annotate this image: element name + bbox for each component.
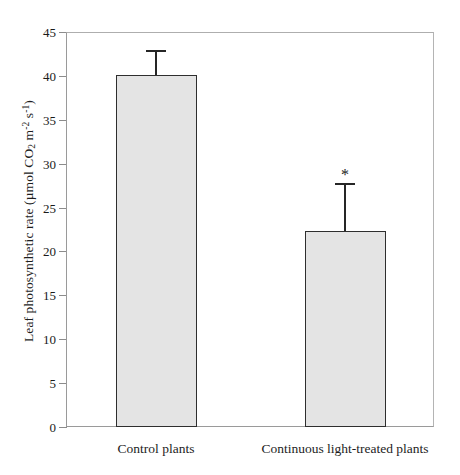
y-axis-title-mid: m bbox=[21, 130, 36, 144]
y-tick-0 bbox=[59, 427, 67, 428]
y-tick-label: 45 bbox=[43, 25, 56, 41]
y-tick-label: 40 bbox=[43, 69, 56, 85]
bar-1 bbox=[305, 231, 386, 427]
x-axis-label-0: Control plants bbox=[118, 441, 195, 457]
y-axis-title-sup-minus2: -2 bbox=[21, 122, 31, 130]
y-axis-title-sub-2: 2 bbox=[27, 144, 37, 149]
y-axis-title: Leaf photosynthetic rate (µmol CO2 m-2 s… bbox=[21, 61, 37, 381]
significance-marker-1: * bbox=[341, 167, 349, 183]
y-axis-title-sup-minus1: -1 bbox=[21, 105, 31, 113]
y-tick-label: 25 bbox=[43, 201, 56, 217]
y-tick-label: 30 bbox=[43, 157, 56, 173]
y-tick-label: 35 bbox=[43, 113, 56, 129]
y-axis-title-prefix: Leaf photosynthetic rate (µmol CO bbox=[21, 149, 36, 342]
bar-0 bbox=[116, 75, 197, 427]
errorbar-stem-0 bbox=[155, 50, 157, 75]
bar-chart-figure: Leaf photosynthetic rate (µmol CO2 m-2 s… bbox=[0, 0, 460, 475]
y-tick-label: 5 bbox=[50, 376, 57, 392]
y-tick-label: 20 bbox=[43, 244, 56, 260]
y-axis-title-suffix: ) bbox=[21, 100, 36, 105]
y-tick-label: 10 bbox=[43, 332, 56, 348]
y-axis-title-space: s bbox=[21, 113, 36, 122]
errorbar-cap-1 bbox=[335, 183, 355, 185]
y-tick-label: 15 bbox=[43, 288, 56, 304]
y-tick-label: 0 bbox=[50, 420, 57, 436]
errorbar-cap-0 bbox=[146, 50, 166, 52]
x-axis-label-1: Continuous light-treated plants bbox=[261, 441, 428, 457]
errorbar-stem-1 bbox=[344, 183, 346, 231]
